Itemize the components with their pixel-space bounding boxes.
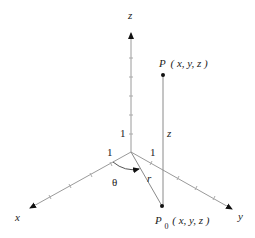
point-p0-label: P 0 ( x, y, z ) [154,214,210,231]
point-p [161,73,165,77]
y-axis-label: y [237,210,243,222]
z-axis [129,33,133,152]
radius-label: r [147,172,152,184]
y-unit-label: 1 [150,146,156,158]
x-unit-label: 1 [107,146,113,158]
angle-arc [113,162,139,170]
point-p0-subscript: 0 [164,222,168,231]
x-axis-label: x [14,211,20,223]
point-p-name: P [158,57,166,69]
point-p-coords: ( x, y, z ) [170,57,208,70]
point-p0 [160,204,164,208]
coordinate-diagram: z x y 1 1 1 z r θ P ( x, y, z ) P 0 ( x,… [0,0,255,238]
point-p0-name: P [154,214,162,226]
angle-label: θ [112,176,117,188]
point-p0-coords: ( x, y, z ) [172,214,210,227]
z-axis-label: z [127,9,133,21]
z-unit-label: 1 [120,127,126,139]
point-p-label: P ( x, y, z ) [158,57,208,70]
height-label: z [166,127,172,139]
